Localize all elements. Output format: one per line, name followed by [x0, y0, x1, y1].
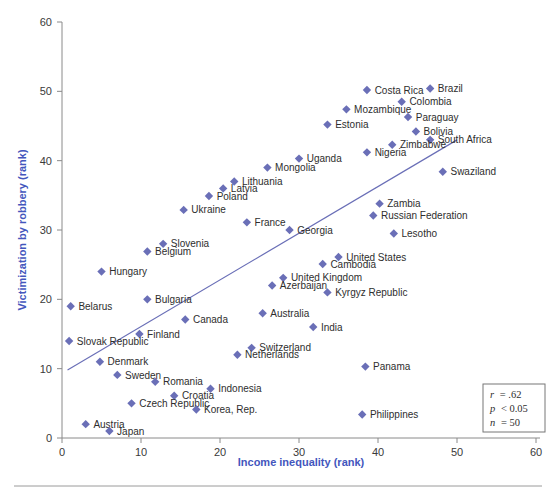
data-point-label: Costa Rica — [375, 85, 424, 96]
data-point[interactable]: Denmark — [96, 356, 149, 367]
data-point[interactable]: Nigeria — [363, 147, 407, 158]
data-point[interactable]: Canada — [181, 314, 228, 325]
data-point[interactable]: Philippines — [358, 409, 418, 420]
data-point[interactable]: Mozambique — [342, 104, 412, 115]
data-point-marker[interactable] — [319, 260, 327, 268]
data-point-label: Ukraine — [191, 204, 226, 215]
data-point-label: Azerbaijan — [280, 280, 327, 291]
data-point[interactable]: Belgium — [143, 246, 191, 257]
data-point-marker[interactable] — [439, 168, 447, 176]
data-point[interactable]: Zambia — [375, 198, 421, 209]
data-point-marker[interactable] — [233, 351, 241, 359]
data-point-label: Canada — [193, 314, 228, 325]
data-point-marker[interactable] — [258, 309, 266, 317]
x-tick-label: 60 — [530, 446, 542, 458]
data-point-label: Nigeria — [375, 147, 407, 158]
data-point-label: Swaziland — [450, 166, 496, 177]
data-point-label: India — [321, 322, 343, 333]
data-point-label: France — [255, 217, 287, 228]
data-point[interactable]: India — [309, 322, 343, 333]
y-tick-label: 30 — [40, 224, 52, 236]
data-point-label: Georgia — [297, 225, 333, 236]
data-point-label: Russian Federation — [381, 210, 468, 221]
data-point[interactable]: Netherlands — [233, 349, 299, 360]
data-point[interactable]: Hungary — [97, 266, 147, 277]
data-point[interactable]: Estonia — [323, 119, 369, 130]
data-point-label: Czech Republic — [139, 398, 209, 409]
y-axis-ticks: 0102030405060 — [40, 16, 62, 444]
data-point[interactable]: Costa Rica — [363, 85, 424, 96]
data-point-marker[interactable] — [263, 163, 271, 171]
stats-p-label: p — [489, 403, 495, 414]
data-point-marker[interactable] — [143, 295, 151, 303]
data-point-marker[interactable] — [179, 206, 187, 214]
data-point-marker[interactable] — [369, 211, 377, 219]
data-point-marker[interactable] — [127, 399, 135, 407]
data-point[interactable]: Mongolia — [263, 162, 316, 173]
data-point-marker[interactable] — [323, 120, 331, 128]
data-point[interactable]: Slovak Republic — [65, 336, 149, 347]
data-point-marker[interactable] — [181, 315, 189, 323]
data-point-label: Cambodia — [330, 259, 376, 270]
data-point-marker[interactable] — [143, 247, 151, 255]
stats-r-value: = .62 — [500, 389, 522, 400]
data-point-marker[interactable] — [113, 371, 121, 379]
data-point-label: Belgium — [155, 246, 191, 257]
data-point-marker[interactable] — [363, 86, 371, 94]
data-point-marker[interactable] — [205, 192, 213, 200]
data-point-label: Panama — [373, 361, 411, 372]
data-point-marker[interactable] — [285, 226, 293, 234]
data-point-marker[interactable] — [390, 229, 398, 237]
stats-r-line: r = .62 — [490, 389, 521, 400]
data-point[interactable]: Paraguay — [404, 112, 459, 123]
y-axis-title: Victimization by robbery (rank) — [16, 149, 28, 311]
data-point[interactable]: Cambodia — [319, 259, 377, 270]
data-point-marker[interactable] — [82, 420, 90, 428]
y-tick-label: 60 — [40, 16, 52, 28]
data-point-label: Poland — [217, 191, 248, 202]
data-point-marker[interactable] — [309, 323, 317, 331]
data-point-marker[interactable] — [361, 362, 369, 370]
data-point[interactable]: Ukraine — [179, 204, 226, 215]
data-point[interactable]: Indonesia — [206, 383, 262, 394]
data-point-marker[interactable] — [66, 302, 74, 310]
stats-box: r = .62 p < 0.05 n = 50 — [483, 384, 545, 432]
data-point-label: Hungary — [109, 266, 147, 277]
data-point[interactable]: Australia — [258, 308, 309, 319]
x-tick-label: 10 — [135, 446, 147, 458]
stats-n-value: = 50 — [501, 417, 520, 428]
data-point-label: Brazil — [438, 83, 463, 94]
data-point[interactable]: Bulgaria — [143, 294, 192, 305]
x-axis-title: Income inequality (rank) — [238, 456, 365, 468]
data-point-label: Philippines — [370, 409, 418, 420]
data-point-marker[interactable] — [412, 127, 420, 135]
data-point[interactable]: Sweden — [113, 370, 161, 381]
stats-r-label: r — [490, 389, 495, 400]
stats-n-label: n — [490, 417, 495, 428]
data-point[interactable]: Russian Federation — [369, 210, 468, 221]
data-point[interactable]: Georgia — [285, 225, 333, 236]
data-point-marker[interactable] — [342, 105, 350, 113]
data-point-marker[interactable] — [268, 281, 276, 289]
data-point[interactable]: Belarus — [66, 301, 112, 312]
stats-n-line: n = 50 — [490, 417, 520, 428]
data-point-label: Slovak Republic — [77, 336, 149, 347]
data-point[interactable]: Kyrgyz Republic — [323, 287, 407, 298]
data-point-marker[interactable] — [65, 337, 73, 345]
data-point[interactable]: Lesotho — [390, 228, 438, 239]
data-point-marker[interactable] — [426, 84, 434, 92]
data-point-marker[interactable] — [97, 267, 105, 275]
data-point[interactable]: Brazil — [426, 83, 463, 94]
data-point[interactable]: Swaziland — [439, 166, 496, 177]
data-point-label: Estonia — [335, 119, 369, 130]
data-point[interactable]: Panama — [361, 361, 411, 372]
data-point[interactable]: France — [243, 217, 286, 228]
data-point-marker[interactable] — [96, 358, 104, 366]
data-point[interactable]: Azerbaijan — [268, 280, 327, 291]
data-point-marker[interactable] — [363, 148, 371, 156]
data-point-marker[interactable] — [358, 410, 366, 418]
data-point-marker[interactable] — [375, 199, 383, 207]
data-point-label: Finland — [147, 329, 180, 340]
data-point-marker[interactable] — [243, 218, 251, 226]
data-point[interactable]: Poland — [205, 191, 248, 202]
